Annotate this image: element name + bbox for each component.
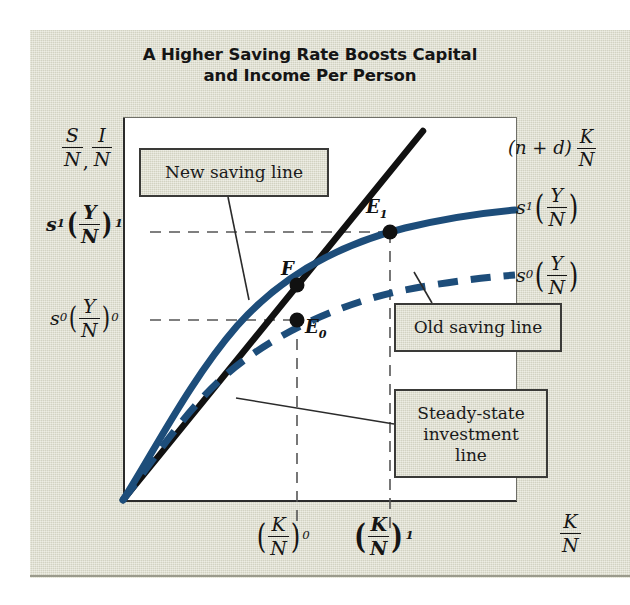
x-tick-label-kn0: ( K N )0 <box>255 515 310 558</box>
point-label-F: F <box>281 258 294 279</box>
leader-line-new-saving <box>228 197 249 300</box>
callout-new-saving-line-text: New saving line <box>165 162 303 183</box>
point-label-E0: E0 <box>305 316 327 341</box>
y-axis-label-investment-fraction: I N <box>92 126 113 169</box>
figure-container: A Higher Saving Rate Boosts Capital and … <box>0 0 630 605</box>
y-axis-label-saving-fraction: S N <box>62 126 83 169</box>
point-label-E1: E1 <box>366 196 388 221</box>
investment-line-prefix: (n + d) <box>508 139 572 157</box>
x-axis-label: K N <box>560 512 581 555</box>
callout-steady-state-text: Steady-state investment line <box>417 403 525 466</box>
marker-E1 <box>383 225 398 240</box>
callout-new-saving-line: New saving line <box>139 148 329 197</box>
y-tick-label-s0: s0 ( Y N )0 <box>50 297 119 340</box>
callout-steady-state-investment-line: Steady-state investment line <box>394 389 548 478</box>
x-tick-label-kn1: ( K N )1 <box>352 515 414 558</box>
callout-old-saving-line: Old saving line <box>394 303 562 352</box>
y-axis-label: S N , I N <box>62 126 112 169</box>
curve-label-s1: s1 ( Y N ) <box>516 186 580 229</box>
curve-label-s0: s0 ( Y N ) <box>516 254 580 297</box>
callout-old-saving-line-text: Old saving line <box>414 317 543 338</box>
curve-label-investment-line: (n + d) K N <box>508 128 596 169</box>
leader-line-steady-state <box>236 398 394 424</box>
marker-F <box>290 278 305 293</box>
y-axis-label-comma: , <box>83 152 92 171</box>
marker-E0 <box>290 313 305 328</box>
y-tick-label-s1: s1 ( Y N )1 <box>46 203 123 246</box>
